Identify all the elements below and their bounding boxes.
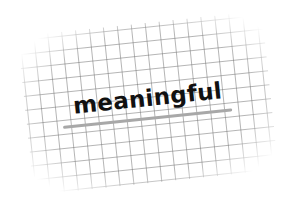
word-label: meaningful (24, 74, 271, 123)
word-container: meaningful (17, 11, 278, 196)
